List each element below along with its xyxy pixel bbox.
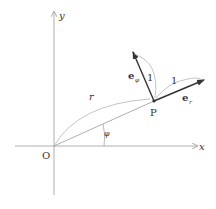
y-axis-label: y (58, 10, 65, 21)
e-r-label: e r (182, 92, 193, 105)
e-r-length-label: 1 (171, 75, 177, 86)
polar-diagram: y x O P r φ 1 1 e φ e r (0, 0, 216, 209)
svg-text:φ: φ (135, 76, 140, 84)
e-phi-length-label: 1 (147, 72, 153, 83)
e-phi-label: e φ (128, 70, 140, 84)
radius-label: r (89, 91, 95, 102)
svg-text:e: e (128, 70, 134, 81)
e-r-length-arc (156, 78, 203, 98)
e-r-vector (154, 80, 204, 101)
point-p-dot (152, 99, 155, 102)
angle-label: φ (104, 129, 110, 138)
origin-label: O (42, 150, 50, 161)
svg-text:r: r (189, 98, 193, 105)
svg-text:e: e (182, 92, 188, 103)
x-axis-label: x (199, 141, 205, 152)
point-p-label: P (150, 107, 157, 118)
radius-brace-arc (54, 99, 150, 146)
